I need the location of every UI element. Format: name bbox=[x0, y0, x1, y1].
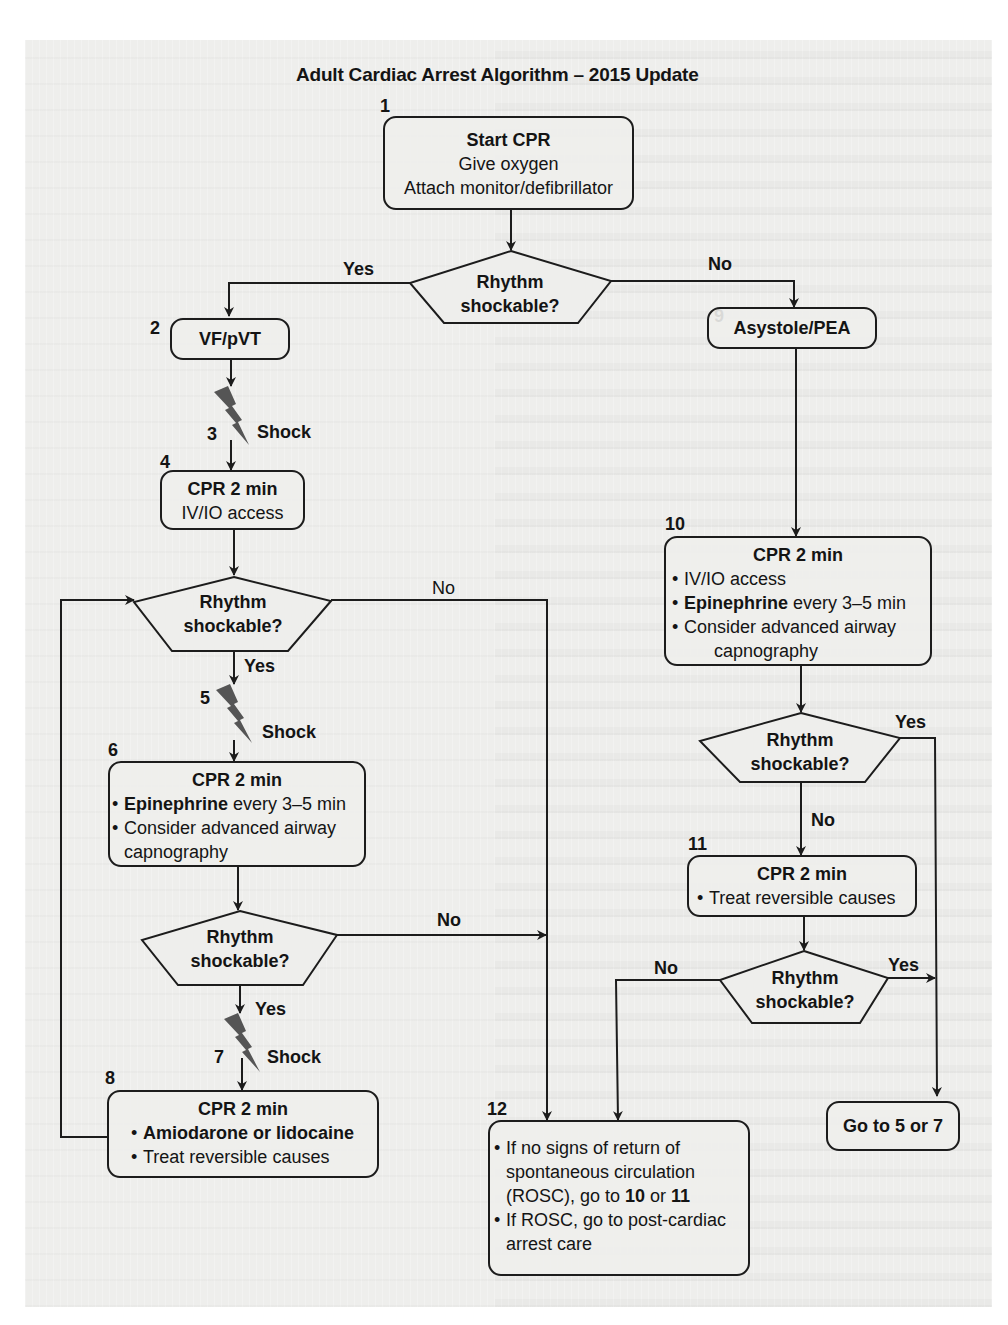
decision-text-line: shockable? bbox=[183, 616, 282, 636]
bullet-item: If no signs of return of spontaneous cir… bbox=[494, 1136, 748, 1208]
bullet-item: Treat reversible causes bbox=[131, 1145, 377, 1169]
step-1-start-cpr-box: Start CPR Give oxygen Attach monitor/def… bbox=[383, 116, 634, 210]
step-6-cpr-box: CPR 2 min Epinephrine every 3–5 min Cons… bbox=[108, 761, 366, 867]
step-8-cpr-box: CPR 2 min Amiodarone or lidocaine Treat … bbox=[107, 1090, 379, 1178]
bullet-text: Treat reversible causes bbox=[143, 1147, 329, 1167]
step-1-line: Attach monitor/defibrillator bbox=[385, 176, 632, 200]
bullet-item: Consider advanced airwaycapnography bbox=[112, 816, 364, 864]
bullet-text: Treat reversible causes bbox=[709, 888, 895, 908]
step-10-heading: CPR 2 min bbox=[666, 543, 930, 567]
decision-1-no-label: No bbox=[708, 254, 732, 275]
step-8-heading: CPR 2 min bbox=[109, 1097, 377, 1121]
bullet-continuation: capnography bbox=[684, 639, 930, 663]
lightning-bolt-icon bbox=[214, 386, 249, 445]
bullet-text: If ROSC, go to post-cardiac bbox=[506, 1210, 726, 1230]
decision-2-no-label: No bbox=[432, 578, 455, 599]
bullet-continuation: (ROSC), go to 10 or 11 bbox=[506, 1184, 748, 1208]
drug-name: Amiodarone or lidocaine bbox=[143, 1123, 354, 1143]
bullet-item: Consider advanced airwaycapnography bbox=[672, 615, 930, 663]
decision-5-text: Rhythm shockable? bbox=[735, 966, 875, 1014]
step-number-8: 8 bbox=[105, 1068, 115, 1089]
step-11-bullets: Treat reversible causes bbox=[689, 886, 915, 910]
go-to-5-or-7-box: Go to 5 or 7 bbox=[826, 1101, 960, 1151]
decision-3-yes-label: Yes bbox=[255, 999, 286, 1020]
bullet-item: If ROSC, go to post-cardiac arrest care bbox=[494, 1208, 748, 1256]
decision-3-text: Rhythm shockable? bbox=[170, 925, 310, 973]
decision-1-text: Rhythm shockable? bbox=[440, 270, 580, 318]
step-12-bullets: If no signs of return of spontaneous cir… bbox=[490, 1136, 748, 1256]
decision-2-yes-label: Yes bbox=[244, 656, 275, 677]
step-12-rosc-box: If no signs of return of spontaneous cir… bbox=[488, 1120, 750, 1276]
step-number-7: 7 bbox=[214, 1047, 224, 1068]
decision-text-line: Rhythm bbox=[477, 272, 544, 292]
step-number-11: 11 bbox=[688, 834, 707, 855]
bullet-text: If no signs of return of bbox=[506, 1138, 680, 1158]
bullet-text: Consider advanced airway bbox=[124, 818, 336, 838]
step-number-2: 2 bbox=[150, 318, 160, 339]
step-11-cpr-box: CPR 2 min Treat reversible causes bbox=[687, 855, 917, 917]
decision-5-no-label: No bbox=[654, 958, 678, 979]
step-4-cpr-box: CPR 2 min IV/IO access bbox=[160, 470, 305, 530]
bullet-text: IV/IO access bbox=[684, 569, 786, 589]
bullet-continuation: spontaneous circulation bbox=[506, 1160, 748, 1184]
decision-5-yes-label: Yes bbox=[888, 955, 919, 976]
step-10-cpr-box: CPR 2 min IV/IO access Epinephrine every… bbox=[664, 536, 932, 666]
decision-text-line: shockable? bbox=[190, 951, 289, 971]
bullet-text: every 3–5 min bbox=[228, 794, 346, 814]
step-10-bullets: IV/IO access Epinephrine every 3–5 min C… bbox=[666, 567, 930, 663]
decision-1-yes-label: Yes bbox=[343, 259, 374, 280]
step-number-3: 3 bbox=[207, 424, 217, 445]
go-to-text: Go to 5 or 7 bbox=[828, 1114, 958, 1138]
step-number-6: 6 bbox=[108, 740, 118, 761]
bullet-item: Epinephrine every 3–5 min bbox=[672, 591, 930, 615]
decision-4-no-label: No bbox=[811, 810, 835, 831]
decision-4-text: Rhythm shockable? bbox=[730, 728, 870, 776]
step-6-heading: CPR 2 min bbox=[110, 768, 364, 792]
bullet-text: (ROSC), go to bbox=[506, 1186, 625, 1206]
bullet-item: Amiodarone or lidocaine bbox=[131, 1121, 377, 1145]
step-9-asystole-pea-box: Asystole/PEA bbox=[707, 307, 877, 349]
step-number-10: 10 bbox=[665, 514, 685, 535]
step-8-bullets: Amiodarone or lidocaine Treat reversible… bbox=[109, 1121, 377, 1169]
decision-2-text: Rhythm shockable? bbox=[163, 590, 303, 638]
step-number-1: 1 bbox=[380, 96, 390, 117]
step-4-heading: CPR 2 min bbox=[162, 477, 303, 501]
shock-label-7: Shock bbox=[267, 1047, 321, 1068]
drug-name: Epinephrine bbox=[124, 794, 228, 814]
decision-text-line: Rhythm bbox=[767, 730, 834, 750]
step-4-line: IV/IO access bbox=[162, 501, 303, 525]
bullet-item: IV/IO access bbox=[672, 567, 930, 591]
decision-text-line: shockable? bbox=[750, 754, 849, 774]
bullet-item: Treat reversible causes bbox=[697, 886, 915, 910]
decision-text-line: Rhythm bbox=[772, 968, 839, 988]
step-9-heading: Asystole/PEA bbox=[709, 316, 875, 340]
bullet-continuation: arrest care bbox=[506, 1232, 748, 1256]
lightning-bolt-icon bbox=[216, 684, 252, 743]
step-1-line: Give oxygen bbox=[385, 152, 632, 176]
decision-text-line: shockable? bbox=[755, 992, 854, 1012]
step-number-5: 5 bbox=[200, 688, 210, 709]
bullet-text: or bbox=[645, 1186, 671, 1206]
bullet-continuation: capnography bbox=[124, 840, 364, 864]
step-number-12: 12 bbox=[487, 1099, 507, 1120]
shock-label-3: Shock bbox=[257, 422, 311, 443]
decision-4-yes-label: Yes bbox=[895, 712, 926, 733]
decision-text-line: Rhythm bbox=[200, 592, 267, 612]
step-reference-10: 10 bbox=[625, 1186, 645, 1206]
step-1-heading: Start CPR bbox=[385, 128, 632, 152]
diagram-title: Adult Cardiac Arrest Algorithm – 2015 Up… bbox=[296, 64, 726, 86]
step-reference-11: 11 bbox=[671, 1186, 690, 1206]
decision-3-no-label: No bbox=[437, 910, 461, 931]
bullet-text: every 3–5 min bbox=[788, 593, 906, 613]
decision-text-line: Rhythm bbox=[207, 927, 274, 947]
decision-text-line: shockable? bbox=[460, 296, 559, 316]
step-11-heading: CPR 2 min bbox=[689, 862, 915, 886]
drug-name: Epinephrine bbox=[684, 593, 788, 613]
bullet-item: Epinephrine every 3–5 min bbox=[112, 792, 364, 816]
bullet-text: Consider advanced airway bbox=[684, 617, 896, 637]
shock-label-5: Shock bbox=[262, 722, 316, 743]
step-2-heading: VF/pVT bbox=[172, 327, 288, 351]
step-2-vf-pvt-box: VF/pVT bbox=[170, 318, 290, 360]
step-6-bullets: Epinephrine every 3–5 min Consider advan… bbox=[110, 792, 364, 864]
